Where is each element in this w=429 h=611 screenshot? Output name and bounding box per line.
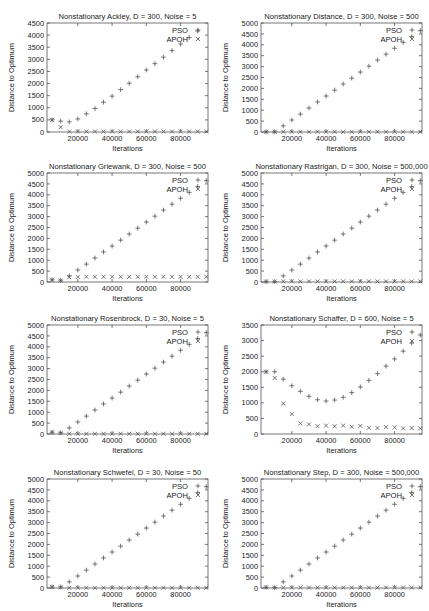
series-apoh xyxy=(50,430,208,436)
y-tick-label: 2500 xyxy=(28,375,44,384)
y-axis-label: Distance to Optimum xyxy=(7,43,16,112)
y-tick-label: 3000 xyxy=(242,336,258,345)
y-tick-label: 2000 xyxy=(242,234,258,243)
y-tick-label: 4000 xyxy=(28,496,44,505)
y-tick-label: 4500 xyxy=(28,486,44,495)
y-tick-label: 2000 xyxy=(28,234,44,243)
y-tick-label: 500 xyxy=(32,573,44,582)
y-tick-label: 4500 xyxy=(28,19,44,28)
legend-label-pso: PSO xyxy=(386,328,402,337)
y-tick-label: 3000 xyxy=(242,212,258,221)
y-tick-label: 2000 xyxy=(242,84,258,93)
y-tick-label: 2000 xyxy=(28,386,44,395)
y-tick-label: 1000 xyxy=(28,562,44,571)
chart-title: Nonstationary Distance, D = 300, Noise =… xyxy=(264,12,419,21)
x-tick-label: 20000 xyxy=(68,284,89,293)
legend-label-apoh: APOH xyxy=(166,185,188,194)
legend-label-pso: PSO xyxy=(172,328,188,337)
y-tick-label: 1000 xyxy=(28,408,44,417)
series-apoh xyxy=(264,279,422,283)
legend-label-pso: PSO xyxy=(386,26,402,35)
x-tick-label: 20000 xyxy=(282,590,303,599)
legend-label-apoh: APOH xyxy=(380,337,402,346)
x-axis-label: Iterations xyxy=(326,294,357,302)
x-tick-label: 60000 xyxy=(136,590,157,599)
y-tick-label: 1500 xyxy=(28,91,44,100)
y-tick-label: 2500 xyxy=(28,67,44,76)
y-tick-label: 2000 xyxy=(28,540,44,549)
y-tick-label: 500 xyxy=(246,414,258,423)
x-tick-label: 80000 xyxy=(384,284,405,293)
y-axis-label: Distance to Optimum xyxy=(7,499,16,568)
y-tick-label: 500 xyxy=(246,573,258,582)
y-tick-label: 4000 xyxy=(28,31,44,40)
y-tick-label: 1500 xyxy=(28,551,44,560)
x-tick-label: 60000 xyxy=(350,134,371,143)
y-tick-label: 1000 xyxy=(28,103,44,112)
x-tick-label: 40000 xyxy=(102,284,123,293)
x-tick-label: 40000 xyxy=(102,134,123,143)
x-tick-label: 60000 xyxy=(350,436,371,445)
chart-panel-6: Nonstationary Schaffer, D = 600, Noise =… xyxy=(214,302,428,454)
y-tick-label: 4000 xyxy=(242,496,258,505)
series-pso xyxy=(264,484,423,590)
x-tick-label: 40000 xyxy=(316,436,337,445)
y-tick-label: 1500 xyxy=(242,95,258,104)
y-tick-label: 5000 xyxy=(28,475,44,484)
y-tick-label: 1000 xyxy=(242,256,258,265)
y-tick-label: 3500 xyxy=(242,507,258,516)
chart-title: Nonstationary Step, D = 300, Noise = 500… xyxy=(264,468,419,477)
series-pso xyxy=(50,484,209,589)
chart-panel-2: Nonstationary Distance, D = 300, Noise =… xyxy=(214,0,428,152)
y-tick-label: 0 xyxy=(40,128,44,137)
y-tick-label: 3500 xyxy=(28,507,44,516)
y-tick-label: 3500 xyxy=(242,201,258,210)
series-apoh xyxy=(50,118,208,134)
plus-marker-icon xyxy=(410,28,415,33)
y-tick-label: 3500 xyxy=(28,353,44,362)
chart-panel-8: Nonstationary Step, D = 300, Noise = 500… xyxy=(214,456,428,608)
chart-panel-5: Nonstationary Rosenbrock, D = 30, Noise … xyxy=(0,302,214,454)
y-tick-label: 5000 xyxy=(28,169,44,178)
plus-marker-icon xyxy=(196,484,201,489)
y-tick-label: 3000 xyxy=(28,212,44,221)
chart-panel-4: Nonstationary Rastrigan, D = 300, Noise … xyxy=(214,150,428,302)
x-tick-label: 20000 xyxy=(282,436,303,445)
x-tick-label: 60000 xyxy=(136,134,157,143)
cross-marker-icon xyxy=(196,37,200,41)
series-apoh xyxy=(264,585,422,589)
legend-label-apoh: APOH xyxy=(380,185,402,194)
x-tick-label: 40000 xyxy=(316,134,337,143)
chart-title: Nonstationary Rosenbrock, D = 30, Noise … xyxy=(51,314,204,323)
x-tick-label: 80000 xyxy=(170,284,191,293)
y-tick-label: 3500 xyxy=(242,321,258,330)
legend-label-pso: PSO xyxy=(386,482,402,491)
y-tick-label: 3500 xyxy=(242,51,258,60)
y-axis-label: Distance to Optimum xyxy=(221,499,230,568)
y-tick-label: 2000 xyxy=(28,79,44,88)
y-tick-label: 3000 xyxy=(28,518,44,527)
y-tick-label: 2500 xyxy=(242,73,258,82)
x-tick-label: 60000 xyxy=(350,590,371,599)
y-tick-label: 4000 xyxy=(242,40,258,49)
y-tick-label: 1500 xyxy=(28,245,44,254)
y-tick-label: 0 xyxy=(254,584,258,593)
x-axis-label: Iterations xyxy=(326,600,357,608)
x-tick-label: 60000 xyxy=(350,284,371,293)
series-pso xyxy=(50,178,209,282)
legend-label-apoh: APOH xyxy=(166,35,188,44)
chart-title: Nonstationary Schwefel, D = 30, Noise = … xyxy=(54,468,201,477)
x-axis-label: Iterations xyxy=(112,600,143,608)
y-tick-label: 3500 xyxy=(28,43,44,52)
x-tick-label: 20000 xyxy=(68,436,89,445)
series-apoh xyxy=(264,370,422,431)
legend-label-apoh: APOH xyxy=(380,35,402,44)
y-axis-label: Distance to Optimum xyxy=(7,193,16,262)
x-tick-label: 80000 xyxy=(384,590,405,599)
y-tick-label: 5000 xyxy=(242,19,258,28)
x-tick-label: 80000 xyxy=(170,436,191,445)
legend-label-apoh: APOH xyxy=(380,491,402,500)
y-tick-label: 4500 xyxy=(242,486,258,495)
x-tick-label: 80000 xyxy=(384,134,405,143)
x-tick-label: 60000 xyxy=(136,284,157,293)
